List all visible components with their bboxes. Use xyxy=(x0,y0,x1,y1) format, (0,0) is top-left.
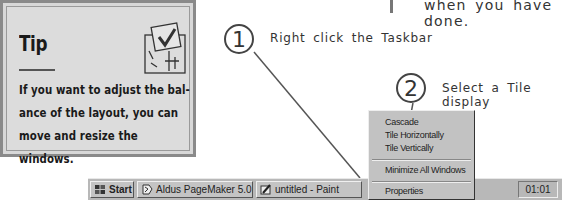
menu-item-minimize-all[interactable]: Minimize All Windows xyxy=(385,165,466,175)
taskbar-context-menu: Cascade Tile Horizontally Tile Verticall… xyxy=(368,110,475,200)
tip-title: Tip xyxy=(19,31,47,56)
checklist-icon xyxy=(139,21,191,77)
menu-item-cascade[interactable]: Cascade xyxy=(385,117,418,127)
taskbar-clock: 01:01 xyxy=(518,181,558,198)
taskbar-button-label: Aldus PageMaker 5.0 xyxy=(156,184,252,195)
annotation-text: when you have done. xyxy=(424,0,574,29)
menu-separator xyxy=(372,159,471,161)
menu-item-tile-vertically[interactable]: Tile Vertically xyxy=(385,143,433,153)
menu-item-properties[interactable]: Properties xyxy=(385,186,423,196)
taskbar-button-label: untitled - Paint xyxy=(275,184,339,195)
callout-text-2: Select a Tile display xyxy=(442,81,574,109)
callout-text-1: Right click the Taskbar xyxy=(270,31,433,45)
tip-line: ance of the layout, you can xyxy=(19,101,195,124)
tip-box: Tip If you want to adjust the bal- ance … xyxy=(0,0,196,157)
paint-icon xyxy=(260,184,272,195)
callout-number-1: 1 xyxy=(224,24,254,54)
taskbar-button-paint[interactable]: untitled - Paint xyxy=(256,181,362,198)
menu-separator xyxy=(372,181,471,183)
menu-item-tile-horizontally[interactable]: Tile Horizontally xyxy=(385,130,444,140)
tip-line: If you want to adjust the bal- xyxy=(19,78,195,101)
start-button[interactable]: Start xyxy=(90,181,134,198)
tip-line: move and resize the windows. xyxy=(19,124,195,170)
start-label: Start xyxy=(109,184,132,195)
tip-divider xyxy=(19,69,55,71)
taskbar-button-pagemaker[interactable]: Aldus PageMaker 5.0 xyxy=(137,181,253,198)
taskbar[interactable]: Start Aldus PageMaker 5.0 untitled - Pai… xyxy=(88,178,562,200)
callout-number-2: 2 xyxy=(396,73,426,103)
tip-body: If you want to adjust the bal- ance of t… xyxy=(19,78,195,170)
windows-logo-icon xyxy=(94,184,106,195)
pagemaker-icon xyxy=(141,184,153,195)
annotation-bar xyxy=(390,0,393,13)
